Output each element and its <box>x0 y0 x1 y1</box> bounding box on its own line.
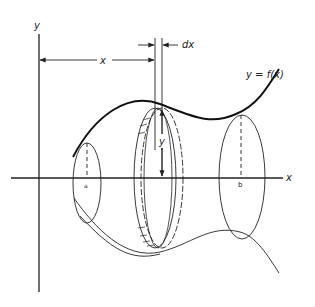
a-label: a <box>84 182 88 189</box>
b-label: b <box>238 181 243 189</box>
axes: y x <box>11 20 292 292</box>
y-radius-label: y <box>158 136 166 147</box>
solid-of-revolution-diagram: y x x dx a b <box>0 0 315 307</box>
cross-section-b: b <box>219 115 265 239</box>
curve-f-lower-inner <box>80 216 160 256</box>
curve-f-upper <box>73 69 279 157</box>
curve-label: y = f(x) <box>245 69 284 80</box>
x-axis-label: x <box>285 172 292 183</box>
dx-label: dx <box>182 39 194 50</box>
curve-f-lower <box>74 198 279 273</box>
x-distance-label: x <box>99 55 106 66</box>
y-axis-label: y <box>33 20 41 31</box>
cross-section-a: a <box>73 143 101 223</box>
